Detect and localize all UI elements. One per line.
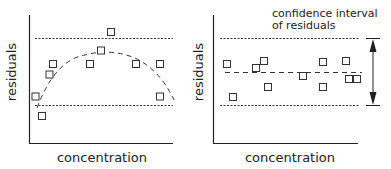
right-plot: confidence interval of residuals residua… xyxy=(191,7,380,165)
right-data-points xyxy=(224,58,361,101)
left-plot: residuals concentration xyxy=(4,15,174,165)
left-x-axis-label: concentration xyxy=(57,150,147,165)
left-y-axis-label: residuals xyxy=(4,43,19,102)
right-y-axis-label: residuals xyxy=(191,43,206,102)
confidence-interval-arrow xyxy=(366,39,380,106)
figure: residuals concentration xyxy=(0,0,391,169)
annotation-line-2: of residuals xyxy=(272,19,336,32)
right-x-axis-label: concentration xyxy=(245,150,335,165)
left-fit-curve xyxy=(37,52,174,108)
